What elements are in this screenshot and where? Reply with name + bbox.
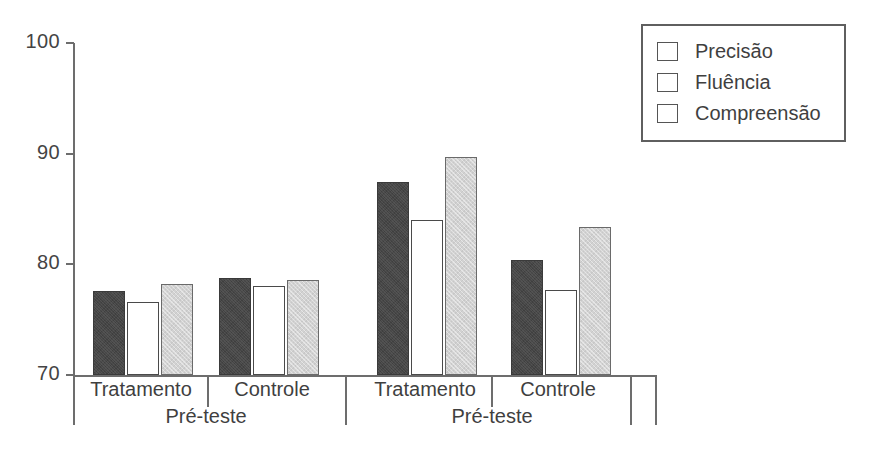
legend-item-compreensao: Compreensão: [657, 98, 832, 129]
legend-swatch-fluencia-icon: [657, 73, 678, 92]
legend-label-fluencia: Fluência: [695, 71, 771, 94]
legend-label-precisao: Precisão: [695, 40, 773, 63]
legend-swatch-compreensao-icon: [657, 104, 678, 123]
bar: [511, 260, 543, 375]
bar: [445, 157, 477, 375]
legend-label-compreensao: Compreensão: [695, 102, 821, 125]
bar: [253, 286, 285, 375]
y-tick-label: 90: [8, 141, 60, 164]
bar: [545, 290, 577, 375]
bar: [411, 220, 443, 375]
category-label: Tratamento: [75, 378, 207, 401]
legend-swatch-precisao-icon: [657, 42, 678, 61]
bar: [127, 302, 159, 375]
supercategory-label: Pré-teste: [75, 405, 337, 428]
legend-item-fluencia: Fluência: [657, 67, 832, 98]
bar: [161, 284, 193, 375]
bar: [219, 278, 251, 375]
category-axis-band: TratamentoControleTratamentoControlePré-…: [73, 377, 657, 425]
bar: [377, 182, 409, 375]
group-separator: [345, 377, 347, 425]
supercategory-label: Pré-teste: [359, 405, 625, 428]
category-label: Controle: [207, 378, 337, 401]
plot-area: [75, 43, 657, 375]
y-tick-label: 80: [8, 251, 60, 274]
bar: [93, 291, 125, 375]
group-separator: [630, 377, 632, 425]
legend-item-precisao: Precisão: [657, 36, 832, 67]
y-tick-mark: [66, 263, 74, 265]
category-divider: [491, 377, 493, 407]
bar: [579, 227, 611, 375]
y-tick-label: 100: [8, 30, 60, 53]
bar: [287, 280, 319, 375]
category-divider: [207, 377, 209, 407]
y-tick-mark: [66, 153, 74, 155]
y-tick-mark: [66, 42, 74, 44]
category-label: Controle: [491, 378, 625, 401]
legend: Precisão Fluência Compreensão: [641, 24, 846, 142]
y-tick-label: 70: [8, 362, 60, 385]
bar-chart: 100908070 TratamentoControleTratamentoCo…: [0, 0, 869, 459]
category-label: Tratamento: [359, 378, 491, 401]
